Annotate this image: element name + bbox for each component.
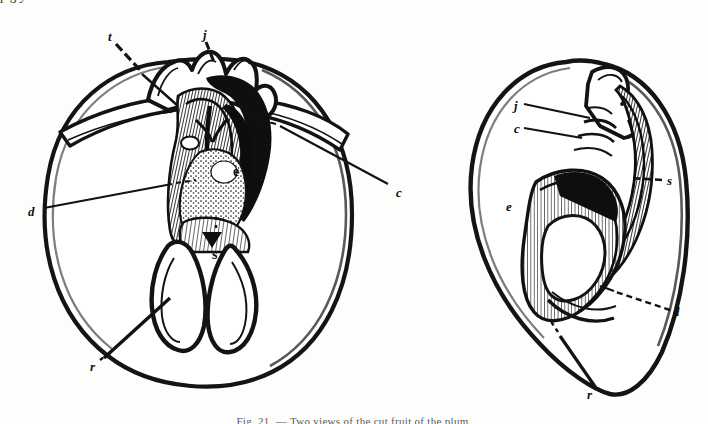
label-right-e: e xyxy=(506,200,512,213)
label-right-r: r xyxy=(587,388,592,401)
illustration-plate: p g y xyxy=(0,0,708,424)
label-left-t: t xyxy=(108,30,112,43)
label-right-c: c xyxy=(514,122,520,135)
label-left-s: s xyxy=(212,248,217,262)
label-left-c: c xyxy=(396,186,402,199)
figure-caption: Fig. 21. — Two views of the cut fruit of… xyxy=(0,415,708,424)
label-left-j: j xyxy=(203,28,207,41)
label-right-j: j xyxy=(514,99,518,112)
label-right-s: s xyxy=(667,174,672,187)
label-left-r: r xyxy=(90,360,95,373)
label-right-d: d xyxy=(673,305,680,318)
label-left-e: e xyxy=(233,165,239,179)
label-left-d: d xyxy=(28,205,35,218)
engraving-artwork xyxy=(0,0,708,424)
